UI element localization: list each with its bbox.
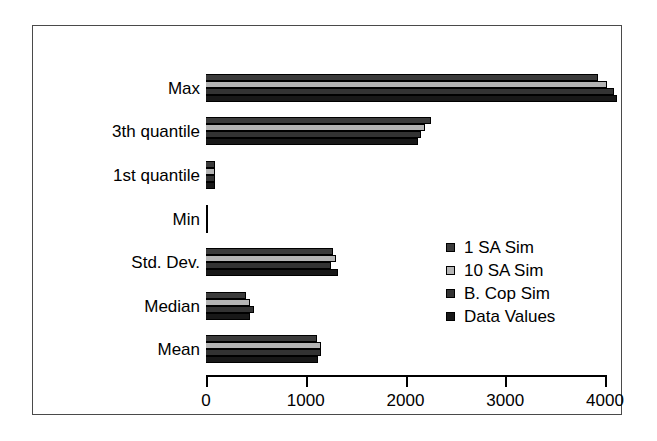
- category-label: Median: [144, 298, 200, 315]
- x-axis-tick-label: 0: [201, 392, 210, 409]
- bar: [206, 248, 333, 255]
- x-axis-tick: [306, 375, 308, 387]
- legend-item: 10 SA Sim: [446, 259, 555, 282]
- bar: [206, 306, 254, 313]
- bar-group: [206, 205, 605, 233]
- chart-screenshot: Max3th quantile1st quantileMinStd. Dev.M…: [0, 0, 657, 441]
- category-label: Min: [173, 211, 200, 228]
- bar: [206, 342, 321, 349]
- legend-swatch-icon: [446, 289, 455, 298]
- bar: [206, 95, 617, 102]
- bar: [206, 131, 421, 138]
- legend-label: 10 SA Sim: [464, 262, 543, 279]
- bar: [206, 269, 338, 276]
- x-axis-tick-label: 3000: [486, 392, 524, 409]
- bar: [206, 349, 321, 356]
- bar: [206, 117, 431, 124]
- legend-label: B. Cop Sim: [464, 285, 550, 302]
- bar: [206, 335, 317, 342]
- x-axis-tick: [206, 375, 208, 387]
- bar-group: [206, 74, 605, 102]
- bar: [206, 88, 614, 95]
- category-label: 1st quantile: [113, 167, 200, 184]
- bar: [206, 356, 318, 363]
- bar-group: [206, 335, 605, 363]
- bar: [206, 161, 215, 168]
- bar: [206, 124, 425, 131]
- bar: [206, 255, 336, 262]
- legend-swatch-icon: [446, 266, 455, 275]
- legend-swatch-icon: [446, 312, 455, 321]
- category-label: Std. Dev.: [131, 254, 200, 271]
- zero-value-marker: [206, 205, 208, 233]
- category-label: Mean: [157, 341, 200, 358]
- bar: [206, 182, 215, 189]
- legend-item: Data Values: [446, 305, 555, 328]
- legend: 1 SA Sim10 SA SimB. Cop SimData Values: [446, 236, 555, 328]
- legend-label: 1 SA Sim: [464, 239, 534, 256]
- bar: [206, 292, 246, 299]
- bar: [206, 81, 607, 88]
- x-axis-tick-label: 4000: [586, 392, 624, 409]
- category-label: Max: [168, 80, 200, 97]
- x-axis-tick-label: 2000: [387, 392, 425, 409]
- x-axis-tick: [406, 375, 408, 387]
- bar: [206, 175, 215, 182]
- x-axis-tick: [605, 375, 607, 387]
- legend-swatch-icon: [446, 243, 455, 252]
- legend-item: B. Cop Sim: [446, 282, 555, 305]
- legend-label: Data Values: [464, 308, 555, 325]
- bar-group: [206, 117, 605, 145]
- figure-frame: Max3th quantile1st quantileMinStd. Dev.M…: [32, 25, 622, 415]
- x-axis-tick: [505, 375, 507, 387]
- bar: [206, 168, 215, 175]
- bar: [206, 74, 598, 81]
- category-label: 3th quantile: [112, 123, 200, 140]
- bar: [206, 313, 250, 320]
- bar-group: [206, 161, 605, 189]
- bar: [206, 138, 418, 145]
- bar: [206, 262, 331, 269]
- legend-item: 1 SA Sim: [446, 236, 555, 259]
- y-axis-category-labels: Max3th quantile1st quantileMinStd. Dev.M…: [73, 66, 200, 371]
- x-axis-tick-label: 1000: [287, 392, 325, 409]
- bar: [206, 299, 250, 306]
